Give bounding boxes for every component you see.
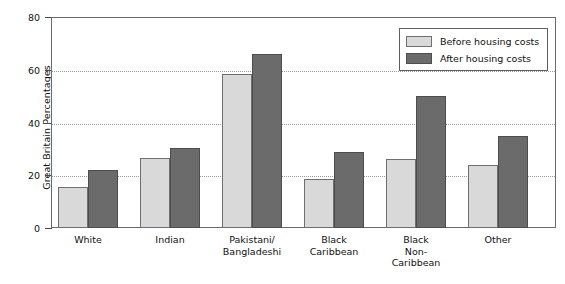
y-tick-0 <box>45 228 52 229</box>
y-tick-label-20: 20 <box>0 170 40 181</box>
legend-label-after: After housing costs <box>440 53 531 64</box>
bar <box>334 152 364 228</box>
legend: Before housing costs After housing costs <box>399 28 548 71</box>
y-tick-label-40: 40 <box>0 117 40 128</box>
bar <box>222 74 252 228</box>
y-axis-title: Great Britain Percentages <box>41 28 52 228</box>
y-tick-label-80: 80 <box>0 12 40 23</box>
legend-item-before: Before housing costs <box>406 34 539 48</box>
x-tick-label-group: Other <box>443 234 553 246</box>
x-tick-label-line: Other <box>443 234 553 246</box>
legend-swatch-after-icon <box>406 53 432 64</box>
bar <box>386 159 416 228</box>
bar <box>416 96 446 228</box>
bar <box>170 148 200 228</box>
bar-chart: Great Britain Percentages 806040200 Whit… <box>0 0 565 284</box>
x-tick-label-line: Caribbean <box>361 257 471 269</box>
y-tick-label-60: 60 <box>0 64 40 75</box>
bar <box>498 136 528 228</box>
bar <box>140 158 170 228</box>
bar <box>252 54 282 228</box>
legend-label-before: Before housing costs <box>440 36 539 47</box>
legend-swatch-before-icon <box>406 36 432 47</box>
bar <box>304 179 334 228</box>
y-tick-label-0: 0 <box>0 223 40 234</box>
bar <box>468 165 498 228</box>
legend-item-after: After housing costs <box>406 51 539 65</box>
bar <box>58 187 88 228</box>
bar <box>88 170 118 228</box>
x-tick-label-line: Non- <box>361 246 471 258</box>
